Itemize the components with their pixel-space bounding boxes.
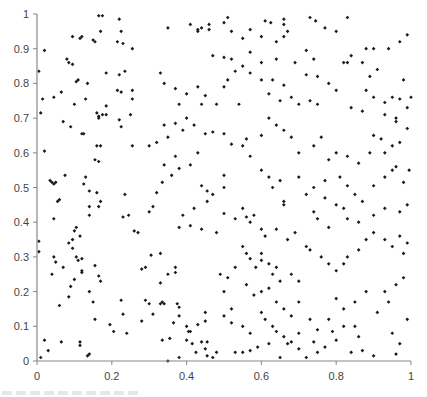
data-point xyxy=(398,234,402,238)
data-point xyxy=(190,342,194,346)
data-point xyxy=(116,40,120,44)
data-points xyxy=(37,14,413,363)
data-point xyxy=(278,356,282,360)
data-point xyxy=(278,279,282,283)
data-point xyxy=(177,226,181,230)
data-point xyxy=(334,297,338,301)
data-point xyxy=(398,40,402,44)
data-point xyxy=(275,40,279,44)
data-point xyxy=(275,300,279,304)
data-point xyxy=(390,168,394,172)
data-point xyxy=(289,135,293,139)
data-point xyxy=(237,102,241,106)
data-point xyxy=(73,102,77,106)
data-point xyxy=(342,262,346,266)
data-point xyxy=(304,356,308,360)
data-point xyxy=(357,161,361,165)
data-point xyxy=(323,26,327,30)
data-point xyxy=(203,319,207,323)
data-point xyxy=(200,26,204,30)
data-point xyxy=(136,231,140,235)
data-point xyxy=(196,151,200,155)
data-point xyxy=(177,102,181,106)
data-point xyxy=(271,272,275,276)
x-tick-label: 0.8 xyxy=(329,370,344,382)
data-point xyxy=(119,298,123,302)
data-point xyxy=(297,279,301,283)
data-point xyxy=(353,193,357,197)
data-point xyxy=(282,83,286,87)
data-point xyxy=(316,217,320,221)
data-point xyxy=(222,314,226,318)
data-point xyxy=(248,220,252,224)
data-point xyxy=(189,23,193,27)
data-point xyxy=(402,78,406,82)
data-point xyxy=(357,248,361,252)
data-point xyxy=(368,151,372,155)
data-point xyxy=(117,17,121,21)
data-point xyxy=(226,78,230,82)
data-point xyxy=(233,69,237,73)
x-tick-label: 0 xyxy=(34,370,40,382)
data-point xyxy=(189,224,193,228)
data-point xyxy=(52,217,56,221)
data-point xyxy=(252,293,256,297)
data-point xyxy=(174,87,178,91)
data-point xyxy=(43,338,47,342)
data-point xyxy=(394,116,398,120)
data-point xyxy=(155,191,159,195)
data-point xyxy=(383,238,387,242)
data-point xyxy=(222,212,226,216)
data-point xyxy=(364,47,368,51)
data-point xyxy=(248,28,252,32)
data-point xyxy=(144,298,148,302)
data-point xyxy=(282,335,286,339)
data-point xyxy=(327,158,331,162)
data-point xyxy=(189,163,193,167)
data-point xyxy=(121,42,125,46)
data-point xyxy=(123,69,127,73)
data-point xyxy=(387,300,391,304)
data-point xyxy=(97,274,101,278)
data-point xyxy=(407,168,411,172)
data-point xyxy=(286,30,290,34)
data-point xyxy=(245,137,249,141)
data-point xyxy=(93,264,97,268)
data-point xyxy=(185,92,189,96)
y-axis: 00.10.20.30.40.50.60.70.80.91 xyxy=(14,8,37,367)
data-point xyxy=(394,283,398,287)
data-point xyxy=(116,89,120,93)
data-point xyxy=(248,257,252,261)
data-point xyxy=(205,340,209,344)
data-point xyxy=(361,200,365,204)
data-point xyxy=(316,350,320,354)
data-point xyxy=(327,318,331,322)
scatter-plot: 00.10.20.30.40.50.60.70.80.91 00.20.40.6… xyxy=(0,0,427,397)
data-point xyxy=(314,19,318,23)
data-point xyxy=(282,23,286,27)
data-point xyxy=(170,174,174,178)
data-point xyxy=(52,95,56,99)
data-point xyxy=(230,142,234,146)
data-point xyxy=(131,97,135,101)
data-point xyxy=(405,318,409,322)
data-point xyxy=(331,330,335,334)
data-point xyxy=(342,324,346,328)
data-point xyxy=(166,26,170,30)
data-point xyxy=(207,23,211,27)
data-point xyxy=(368,75,372,79)
data-point xyxy=(372,231,376,235)
data-point xyxy=(409,95,413,99)
data-point xyxy=(99,30,103,34)
data-point xyxy=(275,57,279,61)
data-point xyxy=(230,30,234,34)
data-point xyxy=(342,206,346,210)
data-point xyxy=(245,252,249,256)
data-point xyxy=(181,213,185,217)
data-point xyxy=(215,102,219,106)
data-point xyxy=(215,350,219,354)
data-point xyxy=(260,290,264,294)
y-tick-label: 0.7 xyxy=(14,112,29,124)
data-point xyxy=(159,281,163,285)
data-point xyxy=(256,345,260,349)
